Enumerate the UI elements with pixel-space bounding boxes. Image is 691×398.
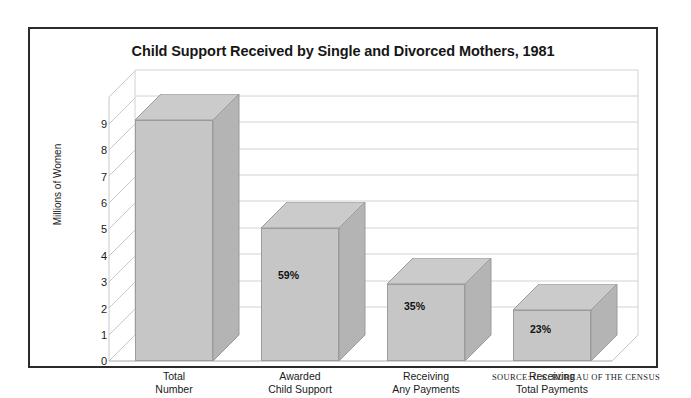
bar-side-face-1	[213, 94, 241, 364]
bar-front-face-4	[513, 310, 591, 361]
category-label-4-line2: Total Payments	[477, 383, 627, 396]
chart-frame: Child Support Received by Single and Div…	[28, 27, 658, 368]
chart-page: Child Support Received by Single and Div…	[0, 0, 691, 398]
source-note: SOURCE: U.S. BUREAU OF THE CENSUS	[0, 372, 660, 382]
bar-front-face-3	[387, 284, 465, 361]
bar-value-label-2: 59%	[278, 269, 299, 281]
bar-front-face-1	[135, 120, 213, 361]
bar-value-label-4: 23%	[530, 323, 551, 335]
bar-front-face-2	[261, 228, 339, 361]
bar-side-face-2	[339, 202, 367, 392]
bar-value-label-3: 35%	[404, 300, 425, 312]
plot-area: Millions of Women 9 8 7 6 5 4 3 2 1 0	[30, 29, 660, 370]
